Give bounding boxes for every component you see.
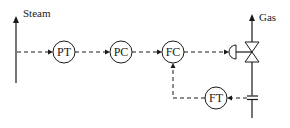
- valve-body-top-icon: [245, 42, 259, 52]
- arrow-right-icon: [105, 50, 110, 55]
- control-valve[interactable]: [229, 42, 259, 62]
- arrow-left-icon: [227, 96, 232, 101]
- instrument-ft[interactable]: FT: [205, 87, 227, 109]
- steam-arrow-icon: [13, 16, 19, 23]
- arrow-right-icon: [224, 50, 229, 55]
- gas-label: Gas: [259, 11, 276, 23]
- gas-arrow-icon: [249, 14, 255, 21]
- steam-line: Steam: [13, 7, 51, 83]
- instrument-label: PC: [114, 45, 129, 59]
- instrument-pt[interactable]: PT: [53, 41, 75, 63]
- signal-fc-to-valve: [184, 50, 229, 55]
- orifice-plate[interactable]: [247, 96, 258, 100]
- instrument-label: FC: [166, 45, 181, 59]
- valve-body-bottom-icon: [245, 52, 259, 62]
- signal-pt-to-pc: [75, 50, 110, 55]
- instrument-pc[interactable]: PC: [110, 41, 132, 63]
- signal-pc-to-fc: [132, 50, 162, 55]
- instrument-fc[interactable]: FC: [162, 41, 184, 63]
- instrument-label: PT: [57, 45, 72, 59]
- cascade-control-diagram: Steam Gas PT PC: [0, 0, 290, 128]
- signal-orifice-to-ft: [227, 96, 247, 101]
- arrow-right-icon: [157, 50, 162, 55]
- steam-label: Steam: [23, 7, 51, 19]
- arrow-right-icon: [48, 50, 53, 55]
- signal-ft-to-fc: [171, 63, 206, 98]
- arrow-up-icon: [171, 63, 176, 68]
- gas-line: Gas: [249, 11, 276, 118]
- valve-actuator-icon: [229, 45, 236, 59]
- signal-steam-to-pt: [17, 50, 53, 55]
- instrument-label: FT: [209, 91, 224, 105]
